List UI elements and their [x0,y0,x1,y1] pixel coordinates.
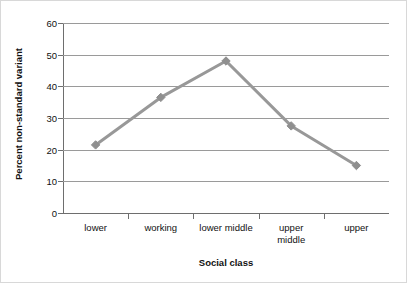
y-tick-label-0: 0 [31,208,57,219]
x-category-label-2: lower middle [199,222,252,234]
y-tick-label-20: 20 [31,144,57,155]
x-tick-mark-2 [193,214,194,219]
plot-area [63,23,389,213]
gridline-60 [63,23,389,24]
gridline-40 [63,86,389,87]
y-tick-label-10: 10 [31,176,57,187]
x-category-label-0: lower [84,222,107,234]
x-category-label-3: upper middle [277,222,305,245]
x-tick-mark-3 [259,214,260,219]
gridline-20 [63,150,389,151]
y-axis-tick-labels: 0102030405060 [29,23,57,213]
x-axis-title: Social class [63,257,389,268]
y-axis-title: Percent non-standard variant [5,1,31,226]
x-axis-category-labels: lowerworkinglower middleupper middleuppe… [63,222,389,254]
y-axis-title-text: Percent non-standard variant [13,48,24,180]
gridline-10 [63,181,389,182]
x-category-label-1: working [144,222,177,234]
x-category-label-4: upper [344,222,368,234]
y-tick-label-60: 60 [31,18,57,29]
x-tick-mark-4 [324,214,325,219]
y-tick-label-30: 30 [31,113,57,124]
gridline-50 [63,55,389,56]
y-tick-label-50: 50 [31,49,57,60]
x-tick-mark-1 [128,214,129,219]
y-tick-label-40: 40 [31,81,57,92]
x-axis-tick-marks [63,214,389,220]
gridline-30 [63,118,389,119]
chart-figure: Percent non-standard variant 01020304050… [0,0,407,283]
